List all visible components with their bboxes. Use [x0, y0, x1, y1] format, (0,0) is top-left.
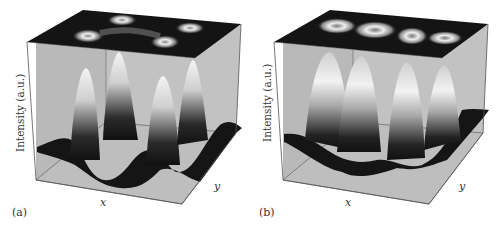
depth-axis-label-a: y	[214, 180, 220, 193]
y-axis-label-a: Intensity (a.u.)	[14, 74, 26, 152]
panel-label-b: (b)	[259, 206, 275, 219]
plot-3d-surface-b	[247, 0, 497, 228]
panel-b: Intensity (a.u.) x y (b)	[247, 0, 497, 228]
depth-axis-label-b: y	[459, 180, 465, 193]
panel-label-a: (a)	[12, 206, 27, 219]
panel-a: Intensity (a.u.) x y (a)	[0, 0, 250, 228]
plot-3d-surface-a	[0, 0, 250, 228]
x-axis-label-a: x	[100, 196, 106, 209]
y-axis-label-b: Intensity (a.u.)	[261, 64, 273, 142]
x-axis-label-b: x	[345, 196, 351, 209]
